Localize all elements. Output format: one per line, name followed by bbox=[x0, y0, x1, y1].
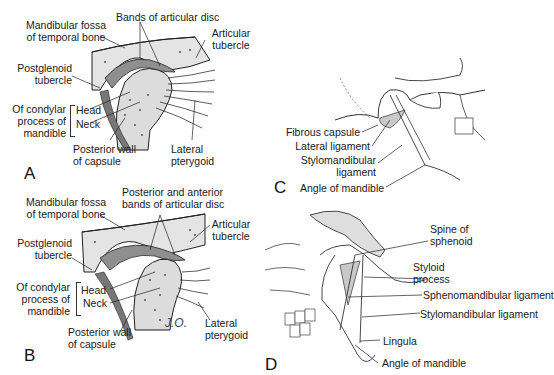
label-line: Of condylar bbox=[16, 281, 70, 293]
label-line: Mandibular fossa bbox=[26, 196, 106, 208]
label-stylomandibular-ligament: Stylomandibularligament bbox=[284, 154, 376, 178]
label-posterior-wall: Posterior wallof capsule bbox=[73, 143, 136, 167]
label-line: of temporal bone bbox=[27, 208, 106, 220]
label-mandibular-fossa: Mandibular fossaof temporal bone bbox=[26, 196, 106, 220]
label-line: Postglenoid bbox=[17, 62, 72, 74]
panel-c: Fibrous capsule Lateral ligament Styloma… bbox=[260, 0, 521, 190]
label-line: tubercle bbox=[212, 230, 249, 242]
label-line: Lateral bbox=[171, 143, 203, 155]
label-line: mandible bbox=[27, 305, 70, 317]
label-line: of temporal bone bbox=[27, 31, 106, 43]
label-line: Of condylar bbox=[12, 103, 66, 115]
label-line: process of bbox=[22, 293, 70, 305]
label-lateral-ligament: Lateral ligament bbox=[282, 140, 370, 152]
label-posterior-wall: Posterior wallof capsule bbox=[68, 326, 131, 350]
label-angle-of-mandible: Angle of mandible bbox=[300, 182, 384, 194]
label-head: Head bbox=[76, 104, 101, 116]
label-line: Styloid bbox=[413, 261, 445, 273]
panel-a: Mandibular fossaof temporal bone Bands o… bbox=[0, 0, 260, 185]
label-sphenomandibular-ligament: Sphenomandibular ligament bbox=[423, 289, 554, 301]
label-line: Stylomandibular bbox=[301, 154, 376, 166]
label-line: of capsule bbox=[68, 338, 116, 350]
label-styloid-process: Styloidprocess bbox=[413, 261, 450, 285]
label-line: pterygoid bbox=[205, 329, 248, 341]
label-neck: Neck bbox=[83, 297, 107, 309]
skull-medial-ligaments-illustration bbox=[260, 195, 521, 375]
label-condylar-process: Of condylarprocess ofmandible bbox=[8, 281, 70, 317]
label-articular-tubercle: Articulartubercle bbox=[206, 218, 256, 242]
label-postglenoid-tubercle: Postglenoidtubercle bbox=[10, 62, 72, 86]
label-line: bands of articular disc bbox=[122, 198, 224, 210]
label-mandibular-fossa: Mandibular fossaof temporal bone bbox=[26, 19, 106, 43]
panel-letter-d: D bbox=[265, 356, 277, 374]
label-line: tubercle bbox=[212, 39, 249, 51]
label-line: process bbox=[413, 273, 450, 285]
label-line: ligament bbox=[336, 166, 376, 178]
label-bands-articular-disc: Bands of articular disc bbox=[116, 11, 219, 23]
label-spine-of-sphenoid: Spine ofsphenoid bbox=[430, 223, 473, 247]
panel-d: Spine ofsphenoid Styloidprocess Sphenoma… bbox=[260, 195, 521, 375]
label-line: Postglenoid bbox=[17, 237, 72, 249]
label-head: Head bbox=[81, 284, 106, 296]
label-line: Posterior wall bbox=[68, 326, 131, 338]
label-line: tubercle bbox=[35, 74, 72, 86]
label-line: Articular bbox=[212, 27, 251, 39]
label-neck: Neck bbox=[76, 118, 100, 130]
panel-letter-b: B bbox=[24, 347, 35, 365]
label-articular-tubercle: Articulartubercle bbox=[206, 27, 256, 51]
label-postglenoid-tubercle: Postglenoidtubercle bbox=[10, 237, 72, 261]
label-angle-of-mandible: Angle of mandible bbox=[382, 357, 466, 369]
label-line: mandible bbox=[23, 127, 66, 139]
panel-b: Mandibular fossaof temporal bone Posteri… bbox=[0, 180, 260, 375]
label-line: Posterior and anterior bbox=[122, 186, 223, 198]
artist-signature: J.O. bbox=[165, 317, 187, 329]
label-line: pterygoid bbox=[171, 155, 214, 167]
label-line: process of bbox=[18, 115, 66, 127]
label-line: Spine of bbox=[430, 223, 469, 235]
condylar-bracket bbox=[70, 105, 75, 137]
label-line: of capsule bbox=[73, 155, 121, 167]
label-fibrous-capsule: Fibrous capsule bbox=[282, 126, 360, 138]
label-stylomandibular-ligament: Stylomandibular ligament bbox=[420, 308, 538, 320]
label-line: sphenoid bbox=[430, 235, 473, 247]
label-line: Articular bbox=[212, 218, 251, 230]
label-lateral-pterygoid: Lateralpterygoid bbox=[171, 143, 214, 167]
label-line: Lateral bbox=[205, 317, 237, 329]
label-lingula: Lingula bbox=[383, 335, 417, 347]
label-line: tubercle bbox=[35, 249, 72, 261]
label-line: Posterior wall bbox=[73, 143, 136, 155]
label-condylar-process: Of condylarprocess ofmandible bbox=[4, 103, 66, 139]
label-posterior-anterior-bands: Posterior and anteriorbands of articular… bbox=[122, 186, 224, 210]
label-lateral-pterygoid: Lateralpterygoid bbox=[205, 317, 248, 341]
label-line: Mandibular fossa bbox=[26, 19, 106, 31]
